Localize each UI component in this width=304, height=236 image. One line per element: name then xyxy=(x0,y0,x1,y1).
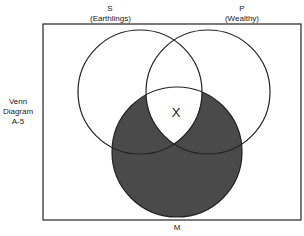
venn-diagram xyxy=(0,0,304,236)
x-mark: X xyxy=(168,106,184,120)
